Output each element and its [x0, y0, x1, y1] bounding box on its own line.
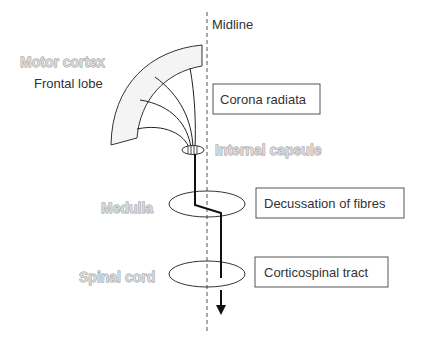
- internal-capsule-label: Internal capsule: [215, 142, 322, 158]
- medulla-label: Medulla: [101, 200, 153, 216]
- spinal-cord-label: Spinal cord: [79, 269, 155, 285]
- corticospinal-tract-line: [195, 154, 221, 278]
- midline-label: Midline: [212, 17, 253, 32]
- internal-capsule-ellipse: [182, 146, 204, 155]
- motor-cortex-label: Motor cortex: [20, 54, 105, 70]
- corona-radiata-label: Corona radiata: [220, 92, 307, 107]
- frontal-lobe-label: Frontal lobe: [34, 76, 103, 91]
- down-arrow-icon: [216, 305, 226, 315]
- corticospinal-diagram: Midline Motor cortex Frontal lobe Intern…: [0, 0, 423, 349]
- corticospinal-tract-label: Corticospinal tract: [264, 265, 368, 280]
- motor-cortex-arc: [111, 45, 202, 145]
- decussation-label: Decussation of fibres: [264, 196, 386, 211]
